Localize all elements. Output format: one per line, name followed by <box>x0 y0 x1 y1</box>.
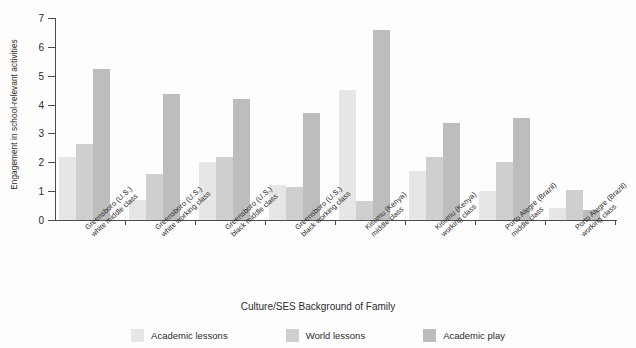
y-tick-label: 5 <box>14 70 44 81</box>
x-tick-mark <box>405 220 406 225</box>
x-tick-mark <box>475 220 476 225</box>
y-tick-mark <box>48 220 55 221</box>
legend-swatch-icon <box>423 329 436 342</box>
x-tick-mark <box>125 220 126 225</box>
x-tick-mark <box>195 220 196 225</box>
bar <box>426 157 443 220</box>
y-tick-label: 4 <box>14 99 44 110</box>
y-tick-mark <box>48 133 55 134</box>
y-tick-label: 7 <box>14 13 44 24</box>
legend-item[interactable]: World lessons <box>286 329 366 342</box>
bar <box>163 94 180 220</box>
y-tick-label: 3 <box>14 128 44 139</box>
bar-group <box>125 18 195 220</box>
bar-chart-figure: Engagement in school-relevant activities… <box>0 0 636 348</box>
y-tick-mark <box>48 76 55 77</box>
bar <box>549 208 566 220</box>
y-tick-label: 2 <box>14 157 44 168</box>
bar <box>59 157 76 220</box>
bar <box>216 157 233 220</box>
bar <box>93 69 110 221</box>
legend-swatch-icon <box>286 329 299 342</box>
legend-label: World lessons <box>306 330 366 341</box>
x-tick-mark <box>615 220 616 225</box>
bar <box>373 30 390 220</box>
y-tick-mark <box>48 18 55 19</box>
legend-item[interactable]: Academic lessons <box>131 329 228 342</box>
x-tick-mark <box>265 220 266 225</box>
bar <box>496 162 513 220</box>
y-tick-label: 1 <box>14 186 44 197</box>
bar-group <box>265 18 335 220</box>
y-tick-mark <box>48 47 55 48</box>
bar <box>146 174 163 220</box>
bar <box>566 190 583 220</box>
y-tick-mark <box>48 105 55 106</box>
bar <box>76 144 93 220</box>
bar <box>286 187 303 220</box>
y-tick-label: 0 <box>14 215 44 226</box>
y-tick-mark <box>48 191 55 192</box>
x-axis-title: Culture/SES Background of Family <box>0 301 636 312</box>
bar-group <box>475 18 545 220</box>
y-tick-label: 6 <box>14 41 44 52</box>
y-tick-mark <box>48 162 55 163</box>
bar-group <box>55 18 125 220</box>
x-tick-mark <box>545 220 546 225</box>
legend-swatch-icon <box>131 329 144 342</box>
legend-label: Academic lessons <box>151 330 228 341</box>
legend-label: Academic play <box>443 330 505 341</box>
x-tick-mark <box>335 220 336 225</box>
bar-group <box>405 18 475 220</box>
legend-item[interactable]: Academic play <box>423 329 505 342</box>
bar <box>409 171 426 220</box>
chart-legend: Academic lessonsWorld lessonsAcademic pl… <box>0 329 636 342</box>
